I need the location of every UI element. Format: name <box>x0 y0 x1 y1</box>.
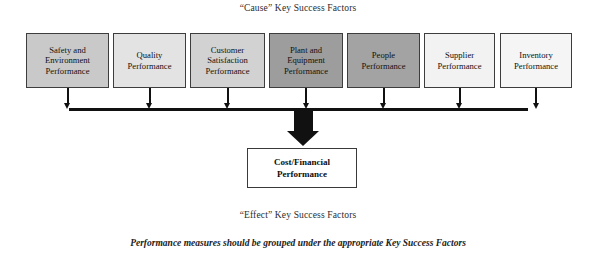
cause-box-label: Supplier Performance <box>427 50 492 71</box>
cause-box-label: Safety and Environment Performance <box>29 45 106 76</box>
cause-box-1[interactable]: Quality Performance <box>113 33 186 88</box>
main-down-arrow-shaft <box>294 110 313 132</box>
cause-box-0[interactable]: Safety and Environment Performance <box>26 33 109 88</box>
cause-box-6[interactable]: Inventory Performance <box>500 33 572 88</box>
cause-box-label: Quality Performance <box>116 50 183 71</box>
diagram-canvas: “Cause” Key Success Factors Safety and E… <box>0 0 596 258</box>
main-down-arrow-head <box>287 131 319 146</box>
cause-box-label: People Performance <box>350 50 417 71</box>
cause-heading: “Cause” Key Success Factors <box>0 3 596 13</box>
cause-box-label: Plant and Equipment Performance <box>272 45 340 76</box>
cause-box-label: Inventory Performance <box>503 50 569 71</box>
cause-box-3[interactable]: Plant and Equipment Performance <box>269 33 343 88</box>
effect-box-label: Cost/Financial Performance <box>248 156 356 180</box>
diagram-caption: Performance measures should be grouped u… <box>0 238 596 248</box>
connector-arrowhead-6 <box>533 103 539 109</box>
cause-box-label: Customer Satisfaction Performance <box>193 45 262 76</box>
effect-heading: “Effect” Key Success Factors <box>0 210 596 220</box>
effect-box-cost-financial-performance[interactable]: Cost/Financial Performance <box>247 148 357 188</box>
cause-box-5[interactable]: Supplier Performance <box>424 33 495 88</box>
cause-box-2[interactable]: Customer Satisfaction Performance <box>190 33 265 88</box>
cause-box-4[interactable]: People Performance <box>347 33 420 88</box>
